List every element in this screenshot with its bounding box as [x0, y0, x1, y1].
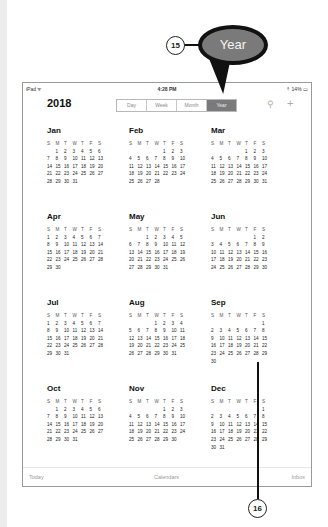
- segment-day[interactable]: Day: [117, 100, 147, 111]
- day-cell[interactable]: 4: [129, 155, 138, 163]
- day-cell[interactable]: 13: [245, 335, 254, 343]
- day-cell[interactable]: 9: [163, 327, 172, 335]
- day-cell[interactable]: 6: [90, 234, 99, 242]
- day-cell[interactable]: 5: [237, 413, 246, 421]
- day-cell[interactable]: 29: [245, 178, 254, 186]
- day-cell[interactable]: 19: [220, 170, 229, 178]
- day-cell[interactable]: 9: [211, 421, 220, 429]
- day-cell[interactable]: 11: [73, 241, 82, 249]
- day-cell[interactable]: 16: [211, 342, 220, 350]
- day-cell[interactable]: 29: [47, 264, 56, 272]
- day-cell[interactable]: 25: [73, 342, 82, 350]
- day-cell[interactable]: 29: [262, 436, 271, 444]
- month-mar[interactable]: MarSMTWTFS123456789101112131415161718192…: [211, 126, 293, 200]
- day-cell[interactable]: 22: [47, 342, 56, 350]
- month-sep[interactable]: SepSMTWTFS123456789101112131415161718192…: [211, 298, 293, 372]
- day-cell[interactable]: 17: [73, 421, 82, 429]
- day-cell[interactable]: 23: [155, 256, 164, 264]
- day-cell[interactable]: 9: [155, 241, 164, 249]
- day-cell[interactable]: 7: [98, 234, 107, 242]
- day-cell[interactable]: 7: [138, 241, 147, 249]
- month-dec[interactable]: DecSMTWTFS123456789101112131415161718192…: [211, 384, 293, 458]
- day-cell[interactable]: 10: [73, 413, 82, 421]
- day-cell[interactable]: 6: [245, 327, 254, 335]
- day-cell[interactable]: 10: [220, 421, 229, 429]
- day-cell[interactable]: 10: [172, 327, 181, 335]
- day-cell[interactable]: 22: [56, 170, 65, 178]
- day-cell[interactable]: 28: [245, 264, 254, 272]
- day-cell[interactable]: 24: [220, 436, 229, 444]
- day-cell[interactable]: 18: [228, 342, 237, 350]
- day-cell[interactable]: 1: [245, 148, 254, 156]
- day-cell[interactable]: 11: [129, 163, 138, 171]
- day-cell[interactable]: 22: [56, 428, 65, 436]
- day-cell[interactable]: 21: [47, 170, 56, 178]
- day-cell[interactable]: 24: [172, 342, 181, 350]
- day-cell[interactable]: 3: [163, 234, 172, 242]
- day-cell[interactable]: 16: [163, 335, 172, 343]
- day-cell[interactable]: 9: [56, 327, 65, 335]
- calendars-button[interactable]: Calendars: [154, 474, 179, 480]
- day-cell[interactable]: 9: [64, 155, 73, 163]
- day-cell[interactable]: 26: [81, 256, 90, 264]
- day-cell[interactable]: 7: [98, 320, 107, 328]
- day-cell[interactable]: 27: [138, 350, 147, 358]
- day-cell[interactable]: 23: [211, 436, 220, 444]
- day-cell[interactable]: 19: [81, 249, 90, 257]
- day-cell[interactable]: 28: [47, 436, 56, 444]
- day-cell[interactable]: 15: [163, 421, 172, 429]
- day-cell[interactable]: 13: [146, 421, 155, 429]
- day-cell[interactable]: 12: [90, 413, 99, 421]
- day-cell[interactable]: 18: [73, 249, 82, 257]
- day-cell[interactable]: 30: [254, 178, 263, 186]
- day-cell[interactable]: 21: [138, 256, 147, 264]
- day-cell[interactable]: 20: [245, 342, 254, 350]
- day-cell[interactable]: 25: [228, 436, 237, 444]
- day-cell[interactable]: 26: [90, 170, 99, 178]
- day-cell[interactable]: 4: [129, 413, 138, 421]
- day-cell[interactable]: 4: [73, 234, 82, 242]
- day-cell[interactable]: 6: [237, 241, 246, 249]
- day-cell[interactable]: 16: [64, 163, 73, 171]
- day-cell[interactable]: 5: [81, 234, 90, 242]
- day-cell[interactable]: 11: [73, 327, 82, 335]
- day-cell[interactable]: 27: [98, 428, 107, 436]
- day-cell[interactable]: 10: [163, 241, 172, 249]
- day-cell[interactable]: 5: [138, 155, 147, 163]
- day-cell[interactable]: 9: [172, 413, 181, 421]
- day-cell[interactable]: 26: [129, 350, 138, 358]
- day-cell[interactable]: 13: [237, 249, 246, 257]
- day-cell[interactable]: 4: [228, 327, 237, 335]
- day-cell[interactable]: 16: [56, 335, 65, 343]
- day-cell[interactable]: 5: [81, 320, 90, 328]
- day-cell[interactable]: 13: [98, 413, 107, 421]
- day-cell[interactable]: 26: [237, 350, 246, 358]
- day-cell[interactable]: 3: [220, 413, 229, 421]
- day-cell[interactable]: 15: [47, 335, 56, 343]
- day-cell[interactable]: 25: [180, 342, 189, 350]
- day-cell[interactable]: 31: [220, 444, 229, 452]
- day-cell[interactable]: 27: [98, 170, 107, 178]
- day-cell[interactable]: 24: [220, 350, 229, 358]
- day-cell[interactable]: 25: [228, 350, 237, 358]
- day-cell[interactable]: 11: [129, 421, 138, 429]
- day-cell[interactable]: 12: [180, 241, 189, 249]
- day-cell[interactable]: 17: [73, 163, 82, 171]
- day-cell[interactable]: 29: [56, 178, 65, 186]
- day-cell[interactable]: 18: [81, 421, 90, 429]
- day-cell[interactable]: 7: [254, 327, 263, 335]
- day-cell[interactable]: 13: [138, 335, 147, 343]
- day-cell[interactable]: 2: [56, 234, 65, 242]
- day-cell[interactable]: 22: [262, 428, 271, 436]
- day-cell[interactable]: 14: [138, 249, 147, 257]
- month-jun[interactable]: JunSMTWTFS123456789101112131415161718192…: [211, 212, 293, 286]
- day-cell[interactable]: 8: [56, 413, 65, 421]
- day-cell[interactable]: 9: [172, 155, 181, 163]
- day-cell[interactable]: 26: [237, 436, 246, 444]
- day-cell[interactable]: 24: [64, 342, 73, 350]
- day-cell[interactable]: 13: [245, 421, 254, 429]
- day-cell[interactable]: 4: [211, 155, 220, 163]
- day-cell[interactable]: 15: [155, 335, 164, 343]
- day-cell[interactable]: 18: [211, 170, 220, 178]
- day-cell[interactable]: 24: [73, 428, 82, 436]
